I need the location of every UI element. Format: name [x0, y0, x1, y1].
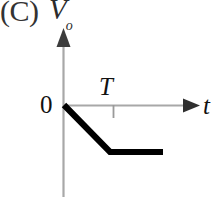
y-axis-label: Vo [49, 0, 74, 29]
y-axis-subscript: o [66, 18, 73, 33]
x-axis-tick-label-T: T [99, 74, 113, 99]
x-axis-arrowhead [183, 99, 200, 113]
origin-label: 0 [40, 92, 53, 117]
option-marker-label: (C) [0, 0, 39, 26]
figure-canvas: (C) Vo 0 T t [0, 0, 224, 197]
x-axis-label: t [203, 93, 210, 118]
y-axis-symbol: V [49, 0, 67, 25]
